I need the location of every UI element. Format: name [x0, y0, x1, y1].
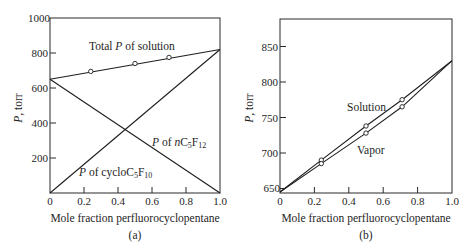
ytick-b-850: 850: [262, 41, 279, 53]
annotation-p-cycloc5f10: P of cycloC5F10: [78, 166, 152, 180]
panel-label-b: (b): [359, 229, 373, 242]
xtick-b-1.0: 1.0: [445, 195, 459, 207]
xtick-a-0.2: 0.2: [77, 195, 91, 207]
xtick-b-0: 0: [277, 195, 283, 207]
annotation-total-p: Total P of solution: [89, 40, 175, 52]
xlabel-b: Mole fraction perfluorocyclopentane: [281, 212, 450, 225]
ytick-b-800: 800: [262, 76, 279, 88]
data-point: [89, 69, 93, 73]
ylabel-b: P, torr: [243, 93, 256, 124]
annotation-vapor: Vapor: [357, 144, 385, 157]
ytick-a-600: 600: [32, 82, 49, 94]
plot-a-y-ticks: 200 400 600 800 1000: [28, 12, 56, 164]
ytick-b-700: 700: [262, 147, 279, 159]
annotation-p-nc5f12: P of nC5F12: [151, 136, 206, 150]
ytick-b-750: 750: [262, 112, 279, 124]
xtick-a-0.8: 0.8: [179, 195, 193, 207]
vapor-point: [400, 105, 404, 109]
xtick-a-0.4: 0.4: [111, 195, 125, 207]
plot-b-y-ticks: 650 700 750 800 850: [262, 41, 287, 195]
panel-label-a: (a): [129, 229, 142, 242]
xtick-b-0.2: 0.2: [308, 195, 322, 207]
data-point: [133, 61, 137, 65]
ytick-a-1000: 1000: [28, 12, 51, 24]
ytick-a-400: 400: [32, 117, 49, 129]
ytick-a-800: 800: [32, 47, 49, 59]
data-point: [167, 55, 171, 59]
figure: 200 400 600 800 1000 0 0.2 0.4 0.6 0.8 1…: [0, 0, 472, 251]
xtick-b-0.4: 0.4: [342, 195, 356, 207]
panel-b: 650 700 750 800 850 0 0.2 0.4 0.6 0.8 1.…: [243, 19, 459, 242]
plot-b-x-ticks: 0 0.2 0.4 0.6 0.8 1.0: [277, 187, 459, 207]
xlabel-a: Mole fraction perfluorocyclopentane: [50, 212, 219, 225]
ytick-b-650: 650: [264, 182, 281, 194]
xtick-b-0.6: 0.6: [376, 195, 390, 207]
panel-a: 200 400 600 800 1000 0 0.2 0.4 0.6 0.8 1…: [12, 12, 227, 242]
xtick-a-0: 0: [47, 195, 53, 207]
xtick-b-0.8: 0.8: [411, 195, 425, 207]
ytick-a-200: 200: [32, 152, 49, 164]
vapor-point: [319, 161, 323, 165]
solution-point: [364, 124, 368, 128]
plot-a-x-ticks: 0 0.2 0.4 0.6 0.8 1.0: [47, 187, 227, 207]
xtick-a-0.6: 0.6: [145, 195, 159, 207]
vapor-point: [364, 131, 368, 135]
ylabel-a: P, torr: [12, 93, 25, 124]
annotation-solution: Solution: [347, 101, 386, 113]
solution-point: [400, 98, 404, 102]
xtick-a-1.0: 1.0: [213, 195, 227, 207]
